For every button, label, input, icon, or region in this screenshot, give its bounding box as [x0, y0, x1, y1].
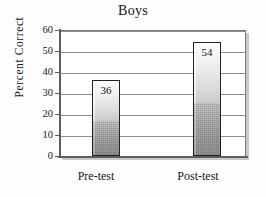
- plot-area: 36 54: [60, 30, 246, 157]
- tick-mark-20: [55, 114, 60, 115]
- category-label-post-test: Post-test: [159, 169, 237, 184]
- tick-mark-30: [55, 93, 60, 94]
- plot-frame-shadow-right: [246, 33, 249, 160]
- category-axis-line: [58, 156, 248, 158]
- tick-label-10: 10: [33, 130, 53, 140]
- y-axis-title: Percent Correct: [13, 5, 25, 109]
- bar-pre-test: 36: [92, 80, 120, 156]
- bar-chart-figure: Boys Percent Correct 36 54 60 50 40 30 2…: [0, 0, 266, 197]
- tick-mark-50: [55, 51, 60, 52]
- tick-label-20: 20: [33, 109, 53, 119]
- tick-label-0: 0: [33, 151, 53, 161]
- tick-label-30: 30: [33, 88, 53, 98]
- bar-value-pre-test: 36: [93, 84, 119, 96]
- tick-mark-10: [55, 135, 60, 136]
- gridline-60: [61, 31, 245, 32]
- tick-mark-40: [55, 72, 60, 73]
- tick-label-50: 50: [33, 46, 53, 56]
- tick-mark-0: [55, 156, 60, 157]
- tick-label-60: 60: [33, 25, 53, 35]
- tick-mark-60: [55, 30, 60, 31]
- tick-label-40: 40: [33, 67, 53, 77]
- bar-value-post-test: 54: [194, 46, 220, 58]
- bar-post-test: 54: [193, 42, 221, 156]
- chart-title: Boys: [0, 3, 266, 19]
- category-label-pre-test: Pre-test: [61, 169, 131, 184]
